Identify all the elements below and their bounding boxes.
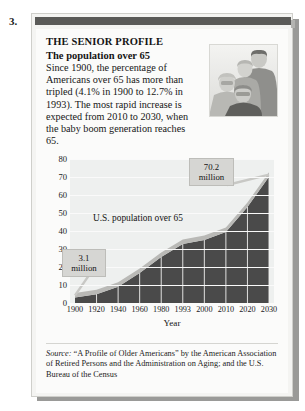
y-tick-label: 0: [43, 298, 67, 308]
x-tick-label: 1920: [88, 305, 104, 314]
x-tick-label: 1960: [131, 305, 147, 314]
callout-high: 70.2 million: [189, 158, 234, 186]
series-label: U.S. population over 65: [93, 213, 183, 223]
figure-title: THE SENIOR PROFILE: [46, 36, 200, 47]
chart-gridline: [70, 177, 274, 178]
x-axis-ticks: 1900192019401960198019932000201020202030: [70, 305, 274, 317]
family-group-illustration: [209, 44, 278, 117]
x-tick-label: 1980: [153, 305, 169, 314]
y-tick-label: 80: [43, 154, 67, 164]
source-note: Source: “A Profile of Older Americans” b…: [46, 349, 280, 380]
source-label: Source:: [46, 349, 72, 358]
chart-gridline: [70, 159, 274, 160]
y-axis-ticks: 01020304050607080: [41, 159, 67, 303]
chart-gridline: [70, 195, 274, 196]
population-area-chart: 01020304050607080 U.S. population over 6…: [41, 155, 283, 340]
figure-subtitle: The population over 65: [46, 50, 200, 61]
x-tick-label: 2020: [239, 305, 255, 314]
y-tick-label: 70: [43, 172, 67, 182]
y-tick-label: 50: [43, 208, 67, 218]
header-bar: [35, 17, 291, 25]
header-bar-shadow: [291, 20, 295, 28]
y-tick-label: 60: [43, 190, 67, 200]
source-text: “A Profile of Older Americans” by the Am…: [46, 349, 276, 379]
chart-gridline: [70, 231, 274, 232]
chart-plot-area: [70, 159, 274, 303]
text-block: THE SENIOR PROFILE The population over 6…: [46, 36, 200, 147]
source-divider: [46, 343, 278, 344]
x-tick-label: 1993: [175, 305, 191, 314]
x-tick-label: 2030: [261, 305, 277, 314]
chart-gridline: [70, 285, 274, 286]
callout-low: 3.1 million: [62, 249, 106, 277]
item-number: 3.: [9, 15, 17, 27]
x-tick-label: 2000: [196, 305, 212, 314]
x-axis-title: Year: [70, 318, 274, 328]
panel-shadow-right: [293, 19, 299, 401]
y-tick-label: 10: [43, 280, 67, 290]
y-tick-label: 40: [43, 226, 67, 236]
figure-body-text: Since 1900, the percentage of Americans …: [46, 62, 200, 147]
figure-content-card: THE SENIOR PROFILE The population over 6…: [36, 29, 288, 393]
x-tick-label: 2010: [218, 305, 234, 314]
x-tick-label: 1900: [67, 305, 83, 314]
x-tick-label: 1940: [110, 305, 126, 314]
